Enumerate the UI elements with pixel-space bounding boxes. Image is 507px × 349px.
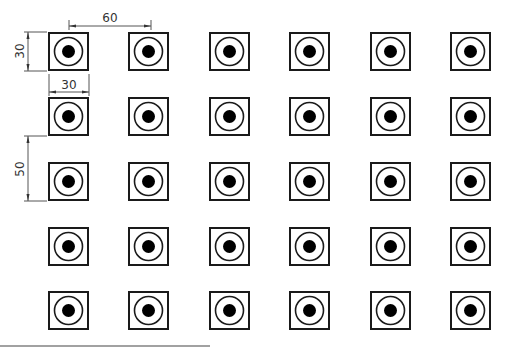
- center-dot: [142, 110, 155, 123]
- socket-symbol: [49, 98, 88, 135]
- center-dot: [303, 110, 316, 123]
- socket-symbol: [371, 33, 410, 70]
- socket-symbol: [290, 98, 329, 135]
- center-dot: [223, 304, 236, 317]
- dimension-vertical-size: 30: [13, 32, 47, 71]
- socket-grid: [49, 33, 490, 329]
- socket-symbol: [290, 228, 329, 265]
- socket-symbol: [371, 163, 410, 200]
- socket-symbol: [129, 98, 168, 135]
- center-dot: [223, 110, 236, 123]
- center-dot: [303, 304, 316, 317]
- center-dot: [303, 240, 316, 253]
- socket-symbol: [290, 163, 329, 200]
- center-dot: [142, 304, 155, 317]
- socket-symbol: [290, 292, 329, 329]
- socket-symbol: [129, 228, 168, 265]
- center-dot: [464, 304, 477, 317]
- center-dot: [303, 175, 316, 188]
- socket-symbol: [49, 228, 88, 265]
- center-dot: [384, 240, 397, 253]
- socket-symbol: [210, 98, 249, 135]
- socket-symbol: [49, 163, 88, 200]
- socket-symbol: [451, 228, 490, 265]
- center-dot: [62, 110, 75, 123]
- socket-symbol: [371, 292, 410, 329]
- center-dot: [142, 240, 155, 253]
- center-dot: [384, 175, 397, 188]
- dimension-horizontal-pitch: 60: [69, 11, 151, 30]
- center-dot: [384, 45, 397, 58]
- center-dot: [62, 45, 75, 58]
- socket-symbol: [451, 163, 490, 200]
- socket-symbol: [451, 33, 490, 70]
- center-dot: [142, 45, 155, 58]
- socket-symbol: [49, 292, 88, 329]
- center-dot: [223, 175, 236, 188]
- socket-symbol: [129, 292, 168, 329]
- socket-symbol: [451, 292, 490, 329]
- center-dot: [464, 110, 477, 123]
- socket-symbol: [49, 33, 88, 70]
- socket-symbol: [210, 228, 249, 265]
- center-dot: [142, 175, 155, 188]
- dimension-label-30-horizontal: 30: [61, 78, 76, 92]
- dimension-label-30-vertical: 30: [13, 43, 27, 58]
- center-dot: [62, 175, 75, 188]
- center-dot: [464, 45, 477, 58]
- center-dot: [62, 240, 75, 253]
- socket-symbol: [451, 98, 490, 135]
- drawing-canvas: 60 30 30 50: [0, 0, 507, 349]
- center-dot: [303, 45, 316, 58]
- socket-symbol: [129, 33, 168, 70]
- dimension-label-50: 50: [13, 161, 27, 176]
- socket-symbol: [371, 228, 410, 265]
- socket-symbol: [371, 98, 410, 135]
- center-dot: [384, 110, 397, 123]
- socket-symbol: [210, 33, 249, 70]
- center-dot: [464, 175, 477, 188]
- dimension-horizontal-size: 30: [49, 74, 89, 96]
- center-dot: [62, 304, 75, 317]
- socket-symbol: [290, 33, 329, 70]
- center-dot: [464, 240, 477, 253]
- socket-symbol: [210, 292, 249, 329]
- dimension-vertical-pitch: 50: [13, 136, 47, 201]
- center-dot: [223, 240, 236, 253]
- dimension-label-60: 60: [102, 11, 117, 25]
- center-dot: [223, 45, 236, 58]
- center-dot: [384, 304, 397, 317]
- socket-symbol: [210, 163, 249, 200]
- socket-symbol: [129, 163, 168, 200]
